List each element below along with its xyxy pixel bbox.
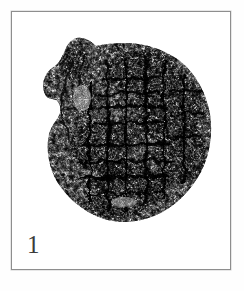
plate-number-label: 1 <box>27 232 40 257</box>
plate-frame: 1 <box>11 11 231 270</box>
artifact-image <box>38 34 218 224</box>
plate-caption <box>11 272 231 288</box>
seal-impression-rubbing <box>38 34 218 224</box>
figure-plate: 1 <box>0 0 244 291</box>
rubbing-ink-field <box>38 34 218 224</box>
